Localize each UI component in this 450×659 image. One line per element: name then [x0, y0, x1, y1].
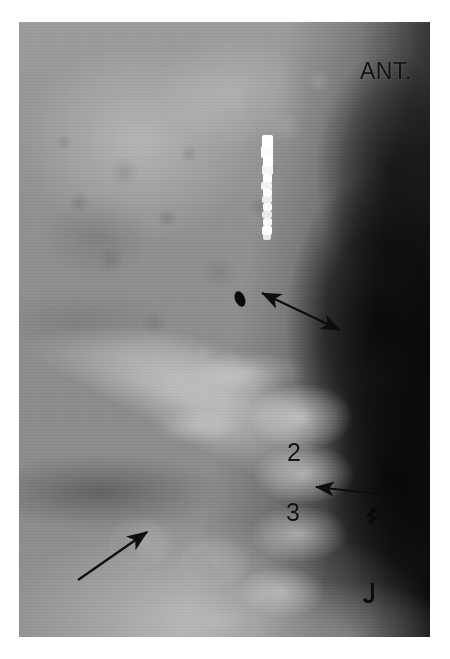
film-grain-layer: [19, 22, 430, 637]
orientation-label-anterior: ANT.: [360, 60, 412, 83]
posterior-arches-layer: [19, 22, 430, 637]
vertebral-bodies-layer: [19, 22, 430, 637]
vertebra-label-2: 2: [287, 440, 301, 465]
trabecular-texture-layer: [19, 22, 430, 637]
skull-base-layer: [19, 22, 430, 637]
mid-shadow-layer: [19, 22, 430, 637]
radiograph-plate: [19, 22, 430, 637]
soft-tissue-base-layer: [19, 22, 430, 637]
lower-soft-tissue-layer: [19, 22, 430, 637]
airway-shadow-layer: [19, 22, 430, 637]
radiograph-figure: ANT. 2 3: [0, 0, 450, 659]
vertebra-label-3: 3: [286, 500, 300, 525]
mandible-ramus-layer: [19, 22, 430, 637]
